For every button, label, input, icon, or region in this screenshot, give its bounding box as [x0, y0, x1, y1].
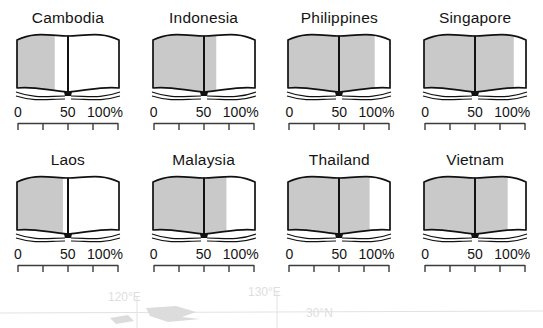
percent-scale: 0 50 100% — [284, 246, 394, 275]
scale-label-mid: 50 — [60, 246, 76, 263]
percent-scale: 0 50 100% — [420, 246, 530, 275]
axis-ruler — [149, 263, 259, 275]
axis-ruler — [284, 121, 394, 133]
landmass-outline-small — [110, 315, 134, 324]
scale-label-min: 0 — [14, 246, 22, 263]
book-pictogram — [284, 172, 394, 244]
coastline-shape — [110, 306, 200, 324]
panel-title: Laos — [51, 152, 85, 168]
percent-scale: 0 50 100% — [149, 246, 259, 275]
scale-label-min: 0 — [421, 104, 429, 121]
scale-labels: 0 50 100% — [284, 104, 394, 121]
graticule-label-120e: 120°E — [108, 290, 141, 304]
chart-panel-grid: Cambodia — [0, 0, 543, 280]
scale-label-min: 0 — [421, 246, 429, 263]
scale-labels: 0 50 100% — [13, 104, 123, 121]
scale-axis — [284, 121, 394, 133]
scale-label-mid: 50 — [196, 246, 212, 263]
percent-scale: 0 50 100% — [420, 104, 530, 133]
panel-thailand: Thailand — [272, 140, 408, 280]
book-pictogram — [420, 30, 530, 102]
panel-title: Indonesia — [169, 10, 238, 26]
axis-ruler — [13, 121, 123, 133]
axis-ruler — [13, 263, 123, 275]
scale-labels: 0 50 100% — [149, 104, 259, 121]
percent-scale: 0 50 100% — [13, 246, 123, 275]
landmass-outline — [146, 306, 200, 322]
axis-ruler — [420, 263, 530, 275]
scale-axis — [13, 263, 123, 275]
open-book-icon — [149, 30, 259, 102]
book-pictogram — [420, 172, 530, 244]
book-pictogram — [13, 30, 123, 102]
panel-laos: Laos — [0, 140, 136, 280]
scale-label-max: 100% — [494, 246, 530, 263]
percent-scale: 0 50 100% — [284, 104, 394, 133]
axis-ruler — [284, 263, 394, 275]
scale-axis — [420, 121, 530, 133]
open-book-icon — [420, 30, 530, 102]
open-book-icon — [284, 172, 394, 244]
scale-label-mid: 50 — [467, 104, 483, 121]
open-book-icon — [420, 172, 530, 244]
scale-label-min: 0 — [150, 104, 158, 121]
axis-ruler — [149, 121, 259, 133]
open-book-icon — [13, 172, 123, 244]
panel-philippines: Philippines — [272, 0, 408, 140]
book-pictogram — [149, 30, 259, 102]
axis-ruler — [420, 121, 530, 133]
panel-title: Thailand — [309, 152, 370, 168]
book-spine-foot — [64, 92, 72, 96]
percent-scale: 0 50 100% — [149, 104, 259, 133]
scale-label-min: 0 — [285, 104, 293, 121]
scale-label-min: 0 — [285, 246, 293, 263]
scale-label-mid: 50 — [332, 246, 348, 263]
scale-label-max: 100% — [87, 104, 123, 121]
graticule-lines — [0, 291, 543, 328]
panel-title: Singapore — [439, 10, 511, 26]
latitude-line-30n — [0, 311, 543, 313]
book-pictogram — [13, 172, 123, 244]
scale-label-max: 100% — [494, 104, 530, 121]
scale-label-mid: 50 — [196, 104, 212, 121]
scale-label-max: 100% — [359, 246, 395, 263]
graticule-label-30n: 30°N — [306, 306, 333, 320]
open-book-icon — [13, 30, 123, 102]
scale-labels: 0 50 100% — [284, 246, 394, 263]
graticule-label-group: 120°E 130°E 30°N — [108, 285, 333, 320]
panel-indonesia: Indonesia — [136, 0, 272, 140]
book-spine-foot — [64, 234, 72, 238]
scale-label-min: 0 — [150, 246, 158, 263]
scale-label-max: 100% — [223, 104, 259, 121]
book-spine-foot — [200, 92, 208, 96]
scale-labels: 0 50 100% — [149, 246, 259, 263]
book-spine-foot — [471, 234, 479, 238]
scale-label-min: 0 — [14, 104, 22, 121]
scale-label-mid: 50 — [332, 104, 348, 121]
panel-malaysia: Malaysia — [136, 140, 272, 280]
panel-title: Philippines — [301, 10, 378, 26]
book-pictogram — [149, 172, 259, 244]
scale-labels: 0 50 100% — [420, 104, 530, 121]
scale-label-max: 100% — [87, 246, 123, 263]
graticule-label-130e: 130°E — [248, 285, 281, 299]
panel-title: Cambodia — [32, 10, 104, 26]
open-book-icon — [149, 172, 259, 244]
percent-scale: 0 50 100% — [13, 104, 123, 133]
book-fill-region — [17, 30, 55, 102]
scale-labels: 0 50 100% — [13, 246, 123, 263]
scale-axis — [284, 263, 394, 275]
panel-singapore: Singapore — [407, 0, 543, 140]
panel-title: Malaysia — [172, 152, 235, 168]
book-spine-foot — [200, 234, 208, 238]
scale-axis — [13, 121, 123, 133]
open-book-icon — [284, 30, 394, 102]
scale-labels: 0 50 100% — [420, 246, 530, 263]
scale-label-max: 100% — [359, 104, 395, 121]
panel-title: Vietnam — [446, 152, 504, 168]
book-pictogram — [284, 30, 394, 102]
scale-label-mid: 50 — [60, 104, 76, 121]
book-spine-foot — [335, 234, 343, 238]
scale-axis — [149, 263, 259, 275]
scale-label-max: 100% — [223, 246, 259, 263]
